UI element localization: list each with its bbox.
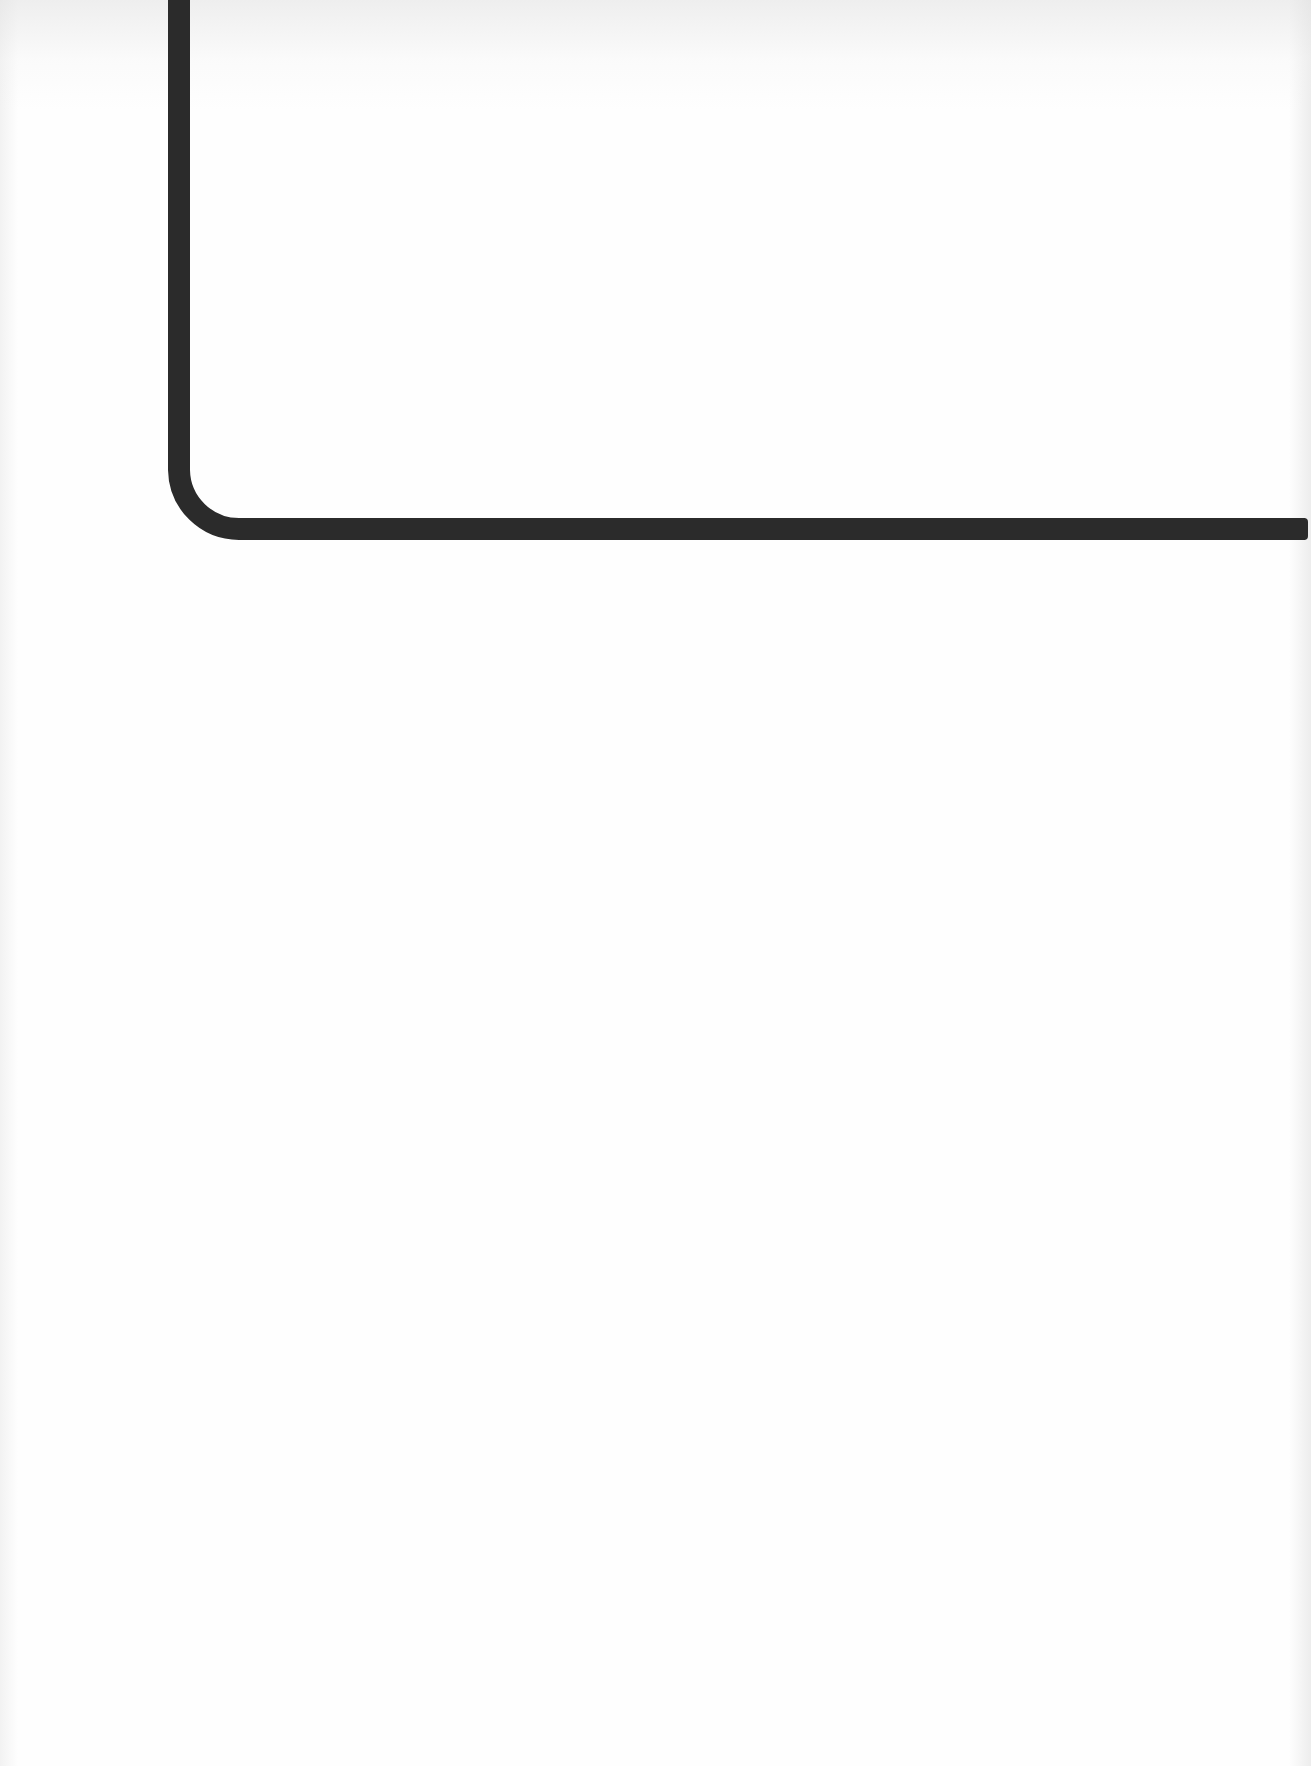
rule-end-cap <box>1300 518 1308 540</box>
scanned-page <box>0 0 1311 1766</box>
l-shaped-rule <box>0 0 1311 1766</box>
rule-path <box>179 0 1305 529</box>
